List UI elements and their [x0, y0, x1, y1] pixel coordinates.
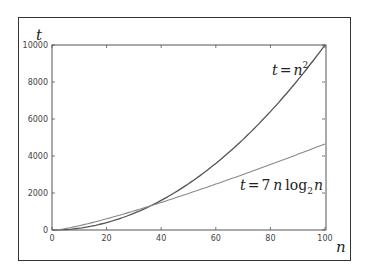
y-tick-label: 8000	[28, 78, 48, 87]
y-tick-label: 2000	[28, 189, 48, 198]
annotation-n-log-n: t=7nlog2n	[240, 177, 323, 196]
y-tick-label: 4000	[28, 152, 48, 161]
x-tick-label: 80	[265, 234, 275, 243]
x-tick-label: 60	[211, 234, 221, 243]
x-tick-label: 100	[317, 234, 332, 243]
y-tick-label: 0	[43, 226, 48, 235]
x-tick-label: 40	[156, 234, 166, 243]
x-tick-label: 0	[49, 234, 54, 243]
x-tick-label: 20	[102, 234, 112, 243]
curve-n-log-n	[52, 144, 325, 230]
y-tick-label: 6000	[28, 115, 48, 124]
y-axis-label: t	[36, 26, 43, 44]
x-axis-label: n	[336, 238, 346, 256]
chart: 0204060801000200040006000800010000 t n t…	[0, 0, 365, 278]
annotation-n-squared: t=n2	[272, 60, 308, 78]
